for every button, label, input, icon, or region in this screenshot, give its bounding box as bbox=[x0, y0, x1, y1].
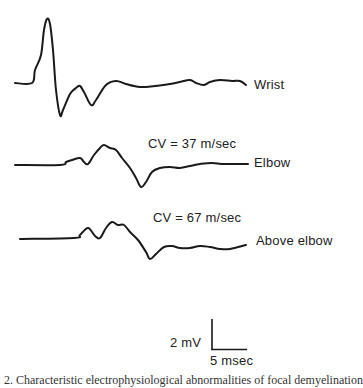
label-above-elbow: Above elbow bbox=[256, 233, 333, 248]
annotation-cv-elbow: CV = 37 m/sec bbox=[148, 136, 236, 151]
annotation-cv-above-elbow: CV = 67 m/sec bbox=[153, 210, 241, 225]
trace-wrist bbox=[15, 19, 246, 117]
scale-label-time: 5 msec bbox=[210, 353, 253, 368]
scale-bar bbox=[211, 319, 247, 350]
figure-caption: 2. Characteristic electrophysiological a… bbox=[4, 373, 363, 388]
label-wrist: Wrist bbox=[254, 77, 284, 92]
trace-above-elbow bbox=[20, 222, 246, 259]
trace-elbow bbox=[15, 145, 248, 187]
scale-label-voltage: 2 mV bbox=[170, 335, 201, 350]
label-elbow: Elbow bbox=[254, 155, 290, 170]
